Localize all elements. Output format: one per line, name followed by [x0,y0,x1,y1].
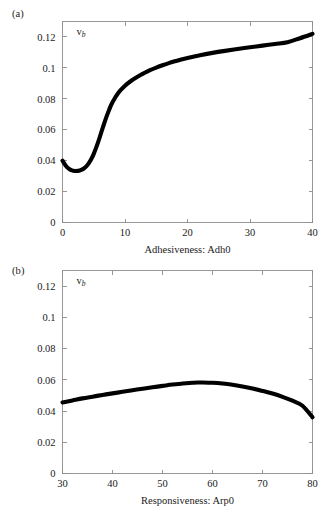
y-tick-label: 0.02 [37,186,55,197]
figure-container: (a) 00.020.040.060.080.10.12010203040Adh… [0,0,335,515]
y-tick-label: 0.04 [37,155,56,166]
y-tick-label: 0.08 [37,94,55,105]
y-tick-label: 0.04 [37,406,56,417]
data-curve [63,382,313,417]
x-tick-label: 70 [257,478,268,489]
x-axis-title: Responsiveness: Arp0 [141,495,234,506]
axes-frame [63,271,313,474]
x-tick-label: 20 [182,227,193,238]
x-tick-label: 40 [307,227,318,238]
x-tick-label: 0 [60,227,65,238]
y-tick-label: 0.02 [37,437,55,448]
series-label: vb [77,26,86,40]
x-tick-label: 50 [157,478,168,489]
x-tick-label: 40 [107,478,118,489]
axes-frame [63,22,313,223]
series-label: vb [77,275,86,289]
x-tick-label: 10 [120,227,131,238]
panel-b: (b) 00.020.040.060.080.10.12304050607080… [0,257,335,515]
y-tick-label: 0.1 [42,63,55,74]
x-tick-label: 60 [207,478,218,489]
x-tick-label: 30 [245,227,256,238]
y-tick-label: 0.08 [37,343,55,354]
panel-a: (a) 00.020.040.060.080.10.12010203040Adh… [0,0,335,258]
x-tick-label: 80 [307,478,318,489]
y-tick-label: 0 [50,217,55,228]
y-tick-label: 0.06 [37,124,55,135]
y-tick-label: 0.1 [42,312,55,323]
panel-a-plot: 00.020.040.060.080.10.12010203040Adhesiv… [0,0,335,258]
data-curve [63,34,313,171]
panel-b-plot: 00.020.040.060.080.10.12304050607080Resp… [0,257,335,515]
y-tick-label: 0.12 [37,281,55,292]
y-tick-label: 0.06 [37,375,55,386]
y-tick-label: 0 [50,468,55,479]
x-axis-title: Adhesiveness: Adh0 [144,244,230,255]
x-tick-label: 30 [57,478,68,489]
y-tick-label: 0.12 [37,32,55,43]
